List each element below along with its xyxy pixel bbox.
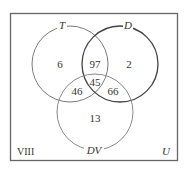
region-dv-only: 13 <box>90 112 102 124</box>
region-d-only: 2 <box>126 58 132 70</box>
region-t-d: 97 <box>90 58 102 70</box>
region-d-dv: 66 <box>108 85 120 97</box>
set-t-label: T <box>59 19 66 31</box>
set-d-label: D <box>123 19 132 31</box>
set-dv-label: DV <box>86 144 103 156</box>
universe-label: U <box>162 145 171 157</box>
region-t-dv: 46 <box>72 85 84 97</box>
region-t-d-dv: 45 <box>90 76 102 88</box>
venn-diagram: T D DV 6 2 97 45 46 66 13 VIII U <box>0 0 190 173</box>
region-t-only: 6 <box>57 58 63 70</box>
figure-label: VIII <box>17 146 34 157</box>
